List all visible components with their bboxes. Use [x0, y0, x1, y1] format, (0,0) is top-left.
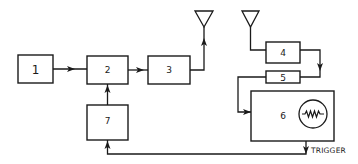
- block-5-label: 5: [280, 73, 286, 83]
- block-7-label: 7: [105, 116, 111, 126]
- block-6: 6: [251, 91, 334, 141]
- wire-3-to-antenna: [190, 27, 204, 70]
- block-4: 4: [266, 42, 300, 63]
- block-7: 7: [87, 105, 128, 140]
- block-2: 2: [87, 56, 128, 84]
- block-3-label: 3: [166, 65, 172, 75]
- block-3: 3: [148, 56, 190, 84]
- block-4-label: 4: [280, 48, 286, 58]
- block-diagram: 1 2 3 7 4 5 6: [0, 0, 358, 164]
- block-1: 1: [18, 55, 53, 83]
- trigger-label: TRIGGER: [310, 146, 346, 155]
- receive-antenna-icon: [242, 11, 259, 27]
- wire-trigger-6-to-7: [108, 140, 307, 154]
- transmit-antenna-icon: [195, 11, 213, 27]
- block-2-label: 2: [105, 65, 111, 75]
- wire-4-to-5: [300, 50, 320, 77]
- block-6-label: 6: [280, 111, 286, 121]
- block-5: 5: [266, 71, 300, 83]
- block-1-label: 1: [32, 63, 40, 77]
- wire-antenna-to-4: [251, 27, 267, 50]
